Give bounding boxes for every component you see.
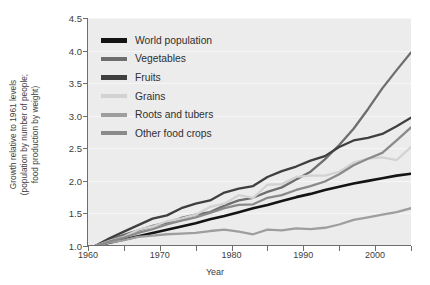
x-tick-mark: [339, 246, 340, 251]
chart-legend: World populationVegetablesFruitsGrainsRo…: [101, 31, 213, 143]
legend-item: Vegetables: [101, 50, 213, 69]
x-tick-label: 1990: [293, 250, 313, 260]
x-tick-label: 1970: [150, 250, 170, 260]
legend-label: Grains: [135, 91, 165, 102]
legend-label: Fruits: [135, 72, 161, 83]
y-tick-label: 4.0: [48, 45, 82, 56]
y-axis-label: Growth relative to 1961 levels (populati…: [2, 0, 42, 285]
x-tick-label: 2000: [365, 250, 385, 260]
x-tick-mark: [196, 246, 197, 251]
legend-item: Grains: [101, 87, 213, 106]
y-tick-label: 1.0: [48, 241, 82, 252]
y-tick-label: 3.5: [48, 78, 82, 89]
x-tick-label: 1960: [78, 250, 98, 260]
legend-swatch: [101, 113, 127, 117]
y-tick-label: 1.5: [48, 208, 82, 219]
legend-label: World population: [135, 35, 212, 46]
legend-item: Other food crops: [101, 124, 213, 143]
legend-item: World population: [101, 31, 213, 50]
y-axis-label-line-1: Growth relative to 1961 levels: [8, 35, 19, 235]
x-axis-line: [87, 245, 411, 246]
legend-swatch: [101, 75, 127, 80]
legend-label: Roots and tubers: [135, 109, 213, 120]
y-tick-label: 4.5: [48, 13, 82, 24]
legend-item: Roots and tubers: [101, 105, 213, 124]
legend-swatch: [101, 57, 127, 61]
legend-swatch: [101, 131, 127, 135]
legend-swatch: [101, 38, 127, 43]
legend-label: Vegetables: [135, 53, 186, 64]
legend-label: Other food crops: [135, 128, 212, 139]
legend-swatch: [101, 94, 127, 98]
y-axis-label-line-3: food production by weight): [30, 35, 41, 235]
x-tick-label: 1980: [222, 250, 242, 260]
legend-item: Fruits: [101, 68, 213, 87]
x-tick-mark: [411, 246, 412, 251]
x-axis-label: Year: [0, 267, 430, 277]
y-axis-line: [87, 18, 88, 246]
x-tick-mark: [267, 246, 268, 251]
y-axis-tick-labels: 1.01.52.02.53.03.54.04.5: [48, 18, 82, 246]
y-tick-label: 2.0: [48, 175, 82, 186]
y-tick-label: 2.5: [48, 143, 82, 154]
chart-figure: Growth relative to 1961 levels (populati…: [0, 0, 430, 285]
series-line: [95, 208, 411, 246]
x-tick-mark: [124, 246, 125, 251]
y-axis-label-line-2: (population by number of people;: [19, 35, 30, 235]
y-tick-label: 3.0: [48, 110, 82, 121]
